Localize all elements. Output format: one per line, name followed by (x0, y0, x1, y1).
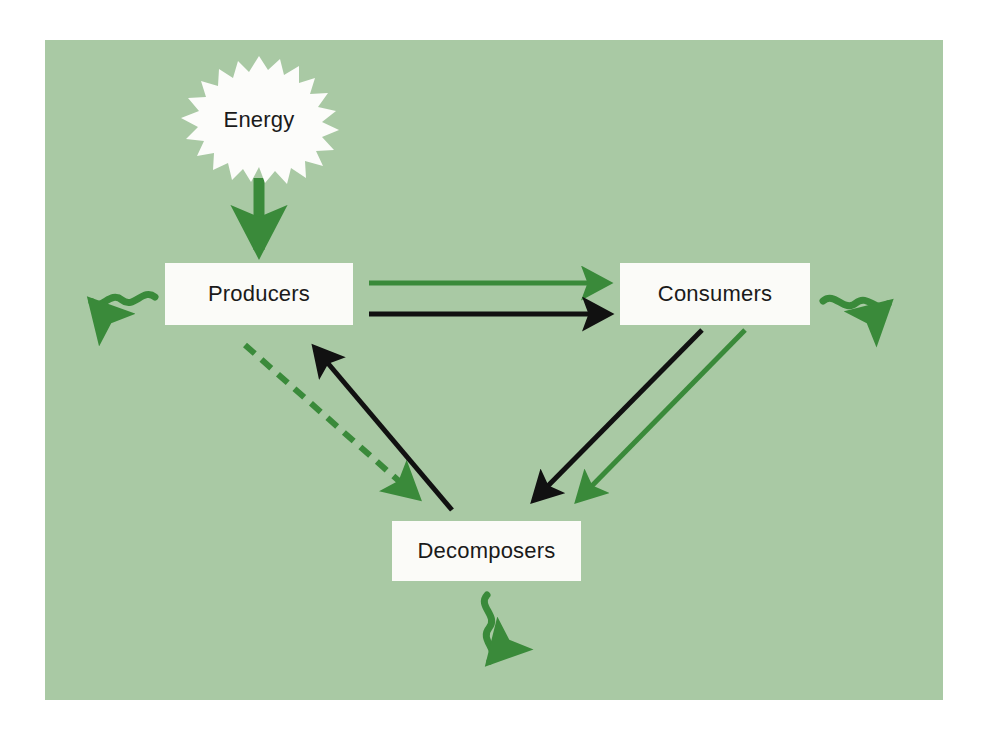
node-energy-label: Energy (224, 107, 295, 133)
diagram-canvas: Energy Producers Consumers Decomposers (0, 0, 988, 731)
connector-consumers-to-decomposers-nutrients (534, 330, 702, 500)
diagram-connectors (0, 0, 988, 731)
node-producers[interactable]: Producers (165, 263, 353, 325)
node-consumers-label: Consumers (658, 281, 772, 307)
node-energy[interactable]: Energy (176, 56, 342, 184)
connector-consumers-to-decomposers-energy (578, 330, 745, 500)
connector-decomposers-to-producers-nutrients (315, 348, 452, 510)
connector-consumers-heat-loss (823, 298, 888, 306)
node-decomposers-label: Decomposers (418, 538, 556, 564)
node-consumers[interactable]: Consumers (620, 263, 810, 325)
node-producers-label: Producers (208, 281, 310, 307)
connector-decomposers-heat-loss (484, 595, 492, 661)
connector-producers-heat-loss (92, 294, 155, 304)
node-decomposers[interactable]: Decomposers (392, 521, 581, 581)
